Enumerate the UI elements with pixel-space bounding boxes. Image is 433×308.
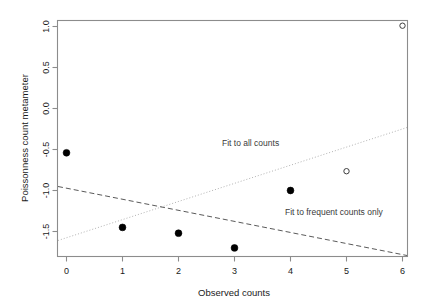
series-infrequent-counts [344,23,405,174]
y-tick-label-1.0: 1.0 [41,20,51,33]
x-tick-label-0: 0 [64,266,69,276]
data-point-open [344,169,349,174]
x-tick-label-1: 1 [120,266,125,276]
data-point [119,224,126,231]
x-tick-label-2: 2 [176,266,181,276]
y-tick-label-0.0: 0.0 [41,102,51,115]
y-axis-ticks [53,27,58,232]
x-axis-tick-labels: 0 1 2 3 4 5 6 [64,266,405,276]
data-point-open [400,23,405,28]
x-tick-label-3: 3 [232,266,237,276]
x-tick-label-6: 6 [400,266,405,276]
y-tick-label--1.5: -1.5 [41,224,51,240]
annotation-fit-to-frequent-counts: Fit to frequent counts only [285,207,384,217]
data-point [175,230,182,237]
data-point [63,149,70,156]
chart-canvas: 1.0 0.5 0.0 -0.5 -1.0 -1.5 Poissonness c… [0,0,433,308]
x-axis-title: Observed counts [198,287,270,298]
data-point [231,245,238,252]
poissonness-plot-figure: 1.0 0.5 0.0 -0.5 -1.0 -1.5 Poissonness c… [0,0,433,308]
x-axis-ticks [67,257,403,262]
x-tick-label-5: 5 [344,266,349,276]
x-tick-label-4: 4 [288,266,293,276]
y-tick-label--0.5: -0.5 [41,142,51,158]
data-point [287,187,294,194]
y-axis-title: Poissonness count metameter [19,74,30,202]
y-tick-label--1.0: -1.0 [41,183,51,199]
annotation-fit-to-all-counts: Fit to all counts [222,138,279,148]
y-tick-label-0.5: 0.5 [41,61,51,74]
y-axis-tick-labels: 1.0 0.5 0.0 -0.5 -1.0 -1.5 [41,20,51,239]
series-frequent-counts [63,149,294,251]
